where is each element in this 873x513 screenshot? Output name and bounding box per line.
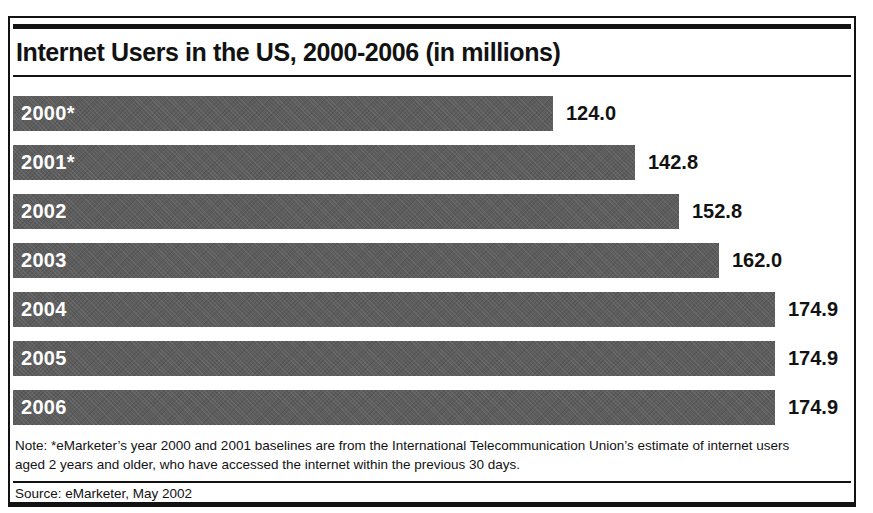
- bar-value-label: 124.0: [566, 102, 616, 125]
- chart-frame: Internet Users in the US, 2000-2006 (in …: [8, 16, 856, 507]
- bar-2004: 2004: [13, 292, 775, 327]
- bar-row-2004: 2004174.9: [13, 292, 854, 327]
- bar-year-label: 2006: [13, 396, 67, 419]
- bar-year-label: 2004: [13, 298, 67, 321]
- bar-row-2000: 2000*124.0: [13, 96, 854, 131]
- bar-2006: 2006: [13, 390, 775, 425]
- bar-row-2005: 2005174.9: [13, 341, 854, 376]
- bar-year-label: 2000*: [13, 102, 75, 125]
- bar-row-2006: 2006174.9: [13, 390, 854, 425]
- bar-year-label: 2005: [13, 347, 67, 370]
- bar-row-2003: 2003162.0: [13, 243, 854, 278]
- page: { "chart_data": { "type": "bar", "orient…: [0, 0, 873, 513]
- footnote-line-1: Note: *eMarketer’s year 2000 and 2001 ba…: [15, 436, 844, 455]
- bar-year-label: 2002: [13, 200, 67, 223]
- bar-2000: 2000*: [13, 96, 553, 131]
- bar-2001: 2001*: [13, 145, 635, 180]
- bar-value-label: 174.9: [788, 396, 838, 419]
- bar-chart-area: 2000*124.02001*142.82002152.82003162.020…: [10, 96, 854, 425]
- bar-year-label: 2001*: [13, 151, 75, 174]
- header-thin-rule: [13, 75, 851, 77]
- bar-value-label: 174.9: [788, 347, 838, 370]
- chart-title: Internet Users in the US, 2000-2006 (in …: [10, 29, 854, 75]
- bar-2003: 2003: [13, 243, 719, 278]
- bar-value-label: 174.9: [788, 298, 838, 321]
- bar-row-2002: 2002152.8: [13, 194, 854, 229]
- footnote: Note: *eMarketer’s year 2000 and 2001 ba…: [15, 436, 844, 474]
- bar-2005: 2005: [13, 341, 775, 376]
- bar-value-label: 142.8: [648, 151, 698, 174]
- source-line: Source: eMarketer, May 2002: [10, 483, 854, 501]
- bar-value-label: 152.8: [692, 200, 742, 223]
- bar-year-label: 2003: [13, 249, 67, 272]
- bar-row-2001: 2001*142.8: [13, 145, 854, 180]
- bar-value-label: 162.0: [732, 249, 782, 272]
- bar-2002: 2002: [13, 194, 679, 229]
- footnote-line-2: aged 2 years and older, who have accesse…: [15, 455, 844, 474]
